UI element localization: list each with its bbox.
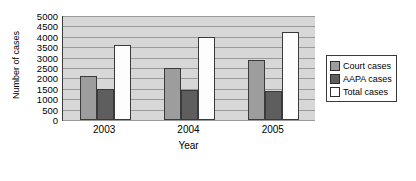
x-tick-label: 2005: [231, 124, 315, 138]
y-tick-label: 3500: [37, 43, 58, 52]
plot-area: [62, 16, 315, 121]
bar-aapa-cases-2005: [265, 91, 282, 120]
bar-total-cases-2003: [114, 45, 131, 120]
bar-group: [248, 16, 299, 120]
y-tick-label: 2000: [37, 74, 58, 83]
bar-aapa-cases-2004: [181, 90, 198, 120]
bar-court-cases-2005: [248, 60, 265, 120]
legend-swatch-icon: [330, 74, 340, 84]
y-tick-label: 5000: [37, 12, 58, 21]
y-tick-label: 4000: [37, 32, 58, 41]
y-tick-label: 2500: [37, 64, 58, 73]
legend-label: Court cases: [343, 61, 391, 71]
bar-total-cases-2005: [282, 32, 299, 120]
legend-label: AAPA cases: [343, 74, 392, 84]
y-tick-label: 3000: [37, 53, 58, 62]
bar-aapa-cases-2003: [97, 89, 114, 120]
x-axis-title: Year: [62, 140, 315, 151]
y-tick-label: 0: [53, 116, 58, 125]
y-tick-label: 4500: [37, 22, 58, 31]
legend-item: AAPA cases: [330, 72, 392, 85]
x-tick-label: 2004: [146, 124, 230, 138]
y-axis-tick-labels: 5000450040003500300025002000150010005000: [16, 11, 58, 125]
legend-item: Total cases: [330, 85, 392, 98]
legend-swatch-icon: [330, 61, 340, 71]
bar-court-cases-2003: [80, 76, 97, 120]
legend-swatch-icon: [330, 87, 340, 97]
gridline: [63, 120, 315, 121]
legend: Court casesAAPA casesTotal cases: [326, 55, 397, 102]
bar-group: [164, 16, 215, 120]
y-tick-label: 1000: [37, 95, 58, 104]
chart-figure: Number of cases 500045004000350030002500…: [0, 0, 416, 181]
x-axis-tick-labels: 200320042005: [62, 124, 315, 138]
legend-item: Court cases: [330, 59, 392, 72]
y-tick-label: 1500: [37, 84, 58, 93]
bar-total-cases-2004: [198, 37, 215, 120]
x-tick-label: 2003: [62, 124, 146, 138]
legend-label: Total cases: [343, 87, 388, 97]
bar-groups: [63, 16, 315, 120]
y-tick-label: 500: [42, 105, 58, 114]
bar-court-cases-2004: [164, 68, 181, 120]
bar-group: [80, 16, 131, 120]
